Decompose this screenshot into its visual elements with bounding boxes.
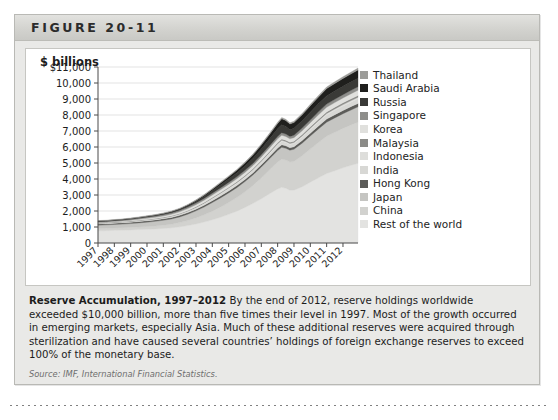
legend-item-label: Rest of the world <box>373 219 462 230</box>
legend-item: Saudi Arabia <box>360 82 520 96</box>
legend-item-label: Singapore <box>373 110 426 121</box>
legend-swatch-icon <box>360 112 368 120</box>
legend-swatch-icon <box>360 166 368 174</box>
legend-item: Indonesia <box>360 150 520 164</box>
page-divider-dotted <box>8 404 550 407</box>
legend-swatch-icon <box>360 139 368 147</box>
legend-swatch-icon <box>360 84 368 92</box>
legend-item-label: Saudi Arabia <box>373 83 440 94</box>
legend-item: China <box>360 204 520 218</box>
y-tick-label: 4,000 <box>62 174 91 185</box>
legend-swatch-icon <box>360 152 368 160</box>
legend-item: Rest of the world <box>360 218 520 232</box>
legend-item: Russia <box>360 95 520 109</box>
chart-legend: ThailandSaudi ArabiaRussiaSingaporeKorea… <box>360 68 520 231</box>
y-tick-label: 6,000 <box>62 142 91 153</box>
legend-item: Thailand <box>360 68 520 82</box>
legend-item: Hong Kong <box>360 177 520 191</box>
y-tick-label: 2,000 <box>62 206 91 217</box>
legend-swatch-icon <box>360 125 368 133</box>
legend-swatch-icon <box>360 207 368 215</box>
y-tick-label: 3,000 <box>62 190 91 201</box>
legend-swatch-icon <box>360 98 368 106</box>
caption-area: Reserve Accumulation, 1997–2012 By the e… <box>25 294 531 379</box>
legend-item-label: Japan <box>373 192 402 203</box>
figure-caption: Reserve Accumulation, 1997–2012 By the e… <box>29 294 525 362</box>
legend-item-label: Korea <box>373 124 403 135</box>
chart-panel: $ billions $11,00010,0009,0008,0007,0006… <box>25 48 531 286</box>
y-tick-label: 5,000 <box>62 158 91 169</box>
y-tick-label: 9,000 <box>62 94 91 105</box>
legend-swatch-icon <box>360 71 368 79</box>
legend-item-label: India <box>373 165 399 176</box>
y-tick-label: 10,000 <box>56 78 91 89</box>
legend-item-label: China <box>373 205 403 216</box>
legend-item-label: Thailand <box>373 70 418 81</box>
figure-container: FIGURE 20-11 $ billions $11,00010,0009,0… <box>14 14 540 385</box>
legend-item: Korea <box>360 122 520 136</box>
legend-item-label: Hong Kong <box>373 178 430 189</box>
legend-item: India <box>360 163 520 177</box>
legend-item-label: Malaysia <box>373 138 419 149</box>
y-tick-label: 1,000 <box>62 222 91 233</box>
caption-title: Reserve Accumulation, 1997–2012 <box>29 295 226 306</box>
legend-item: Malaysia <box>360 136 520 150</box>
figure-number-label: FIGURE 20-11 <box>31 20 158 35</box>
legend-swatch-icon <box>360 180 368 188</box>
source-note: Source: IMF, International Financial Sta… <box>29 369 525 379</box>
legend-item-label: Indonesia <box>373 151 424 162</box>
legend-swatch-icon <box>360 220 368 228</box>
legend-item: Japan <box>360 190 520 204</box>
figure-header-bar: FIGURE 20-11 <box>15 15 539 41</box>
legend-item: Singapore <box>360 109 520 123</box>
y-tick-label: 7,000 <box>62 126 91 137</box>
y-tick-label: 8,000 <box>62 110 91 121</box>
legend-item-label: Russia <box>373 97 407 108</box>
legend-swatch-icon <box>360 193 368 201</box>
y-tick-label: $11,000 <box>50 62 91 73</box>
